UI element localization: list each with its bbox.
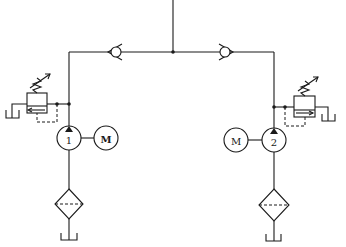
pump-1: 1 bbox=[57, 126, 81, 150]
filter-right bbox=[259, 189, 289, 221]
motor-2-label: M bbox=[231, 136, 241, 147]
pump-direction-arrow-icon bbox=[270, 128, 278, 134]
pump-1-label: 1 bbox=[66, 135, 72, 146]
junction-dot bbox=[272, 105, 276, 109]
hydraulic-circuit-diagram: 1 M 2 M bbox=[0, 0, 346, 247]
pump-2-label: 2 bbox=[271, 137, 277, 148]
filter-left bbox=[55, 189, 83, 219]
pump-2: 2 bbox=[262, 128, 286, 152]
motor-2: M bbox=[224, 128, 248, 152]
relief-valve-right bbox=[294, 77, 328, 121]
junction-dot bbox=[67, 102, 71, 106]
motor-1-label: M bbox=[100, 134, 111, 145]
relief-valve-left bbox=[12, 74, 50, 118]
motor-1: M bbox=[94, 126, 118, 150]
pump-direction-arrow-icon bbox=[65, 126, 73, 132]
